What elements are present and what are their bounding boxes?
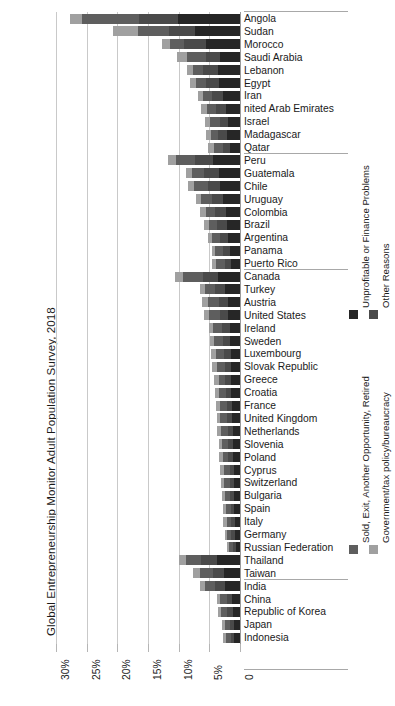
stacked-bar-chart: Global Entrepreneurship Monitor Adult Po…: [0, 0, 395, 706]
legend-label: Sold, Exit, Another Opportunity, Retired: [360, 376, 371, 543]
legend-swatch: [349, 310, 358, 319]
x-axis-ticks: 30%25%20%15%10%5%0: [0, 0, 395, 706]
tick-mark: [87, 644, 88, 652]
x-tick-label: 0: [244, 674, 255, 680]
x-tick-label: 15%: [152, 659, 163, 680]
x-tick-label: 10%: [183, 659, 194, 680]
legend-label: Other Reasons: [380, 243, 391, 308]
tick-mark: [209, 644, 210, 652]
x-tick-label: 25%: [91, 659, 102, 680]
tick-mark: [240, 644, 241, 652]
x-tick-label: 5%: [213, 665, 224, 680]
tick-mark: [148, 644, 149, 652]
tick-mark: [56, 644, 57, 652]
region-separator: [244, 669, 348, 670]
region-separator: [244, 269, 348, 270]
legend-label: Unprofitable or Finance Problems: [360, 165, 371, 308]
legend-swatch: [369, 310, 378, 319]
legend-swatch: [349, 545, 358, 554]
region-separator: [244, 153, 348, 154]
tick-mark: [179, 644, 180, 652]
region-separator: [244, 579, 348, 580]
legend-swatch: [369, 545, 378, 554]
x-tick-label: 20%: [121, 659, 132, 680]
chart-legend: Unprofitable or Finance ProblemsOther Re…: [349, 0, 395, 706]
x-tick-label: 30%: [60, 659, 71, 680]
tick-mark: [117, 644, 118, 652]
region-separator: [244, 11, 348, 12]
legend-label: Government/tax policy/bureaucracy: [380, 392, 391, 543]
